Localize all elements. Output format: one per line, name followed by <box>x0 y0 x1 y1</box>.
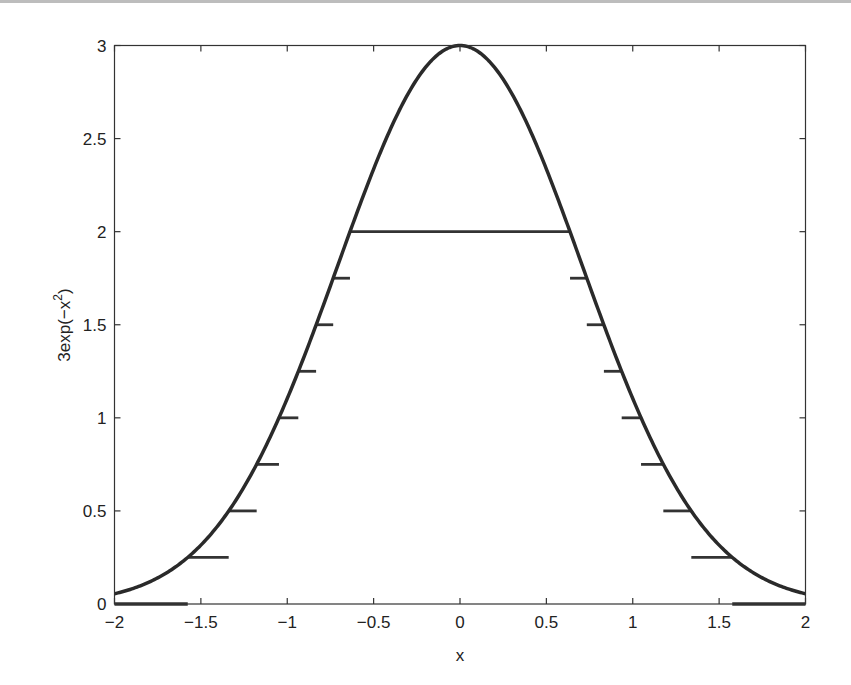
x-tick-label: −1 <box>278 613 297 632</box>
y-tick-label: 2.5 <box>83 130 107 149</box>
x-tick-label: 1.5 <box>707 613 731 632</box>
x-tick-label: 0 <box>455 613 464 632</box>
x-tick-label: −1.5 <box>184 613 218 632</box>
x-tick-label: −2 <box>105 613 124 632</box>
x-tick-label: −0.5 <box>357 613 391 632</box>
x-tick-label: 2 <box>801 613 810 632</box>
y-axis-label: 3exp(−x2) <box>51 288 74 361</box>
x-tick-label: 1 <box>628 613 637 632</box>
plot-lines <box>115 46 806 605</box>
y-tick-label: 1.5 <box>83 316 107 335</box>
curve-line <box>115 46 806 594</box>
y-tick-label: 2 <box>97 223 106 242</box>
x-tick-label: 0.5 <box>535 613 559 632</box>
y-tick-label: 0.5 <box>83 502 107 521</box>
x-axis-label: x <box>456 646 465 665</box>
y-tick-label: 0 <box>97 595 106 614</box>
axis-ticks: −2−1.5−1−0.500.511.5200.511.522.53 <box>83 37 810 633</box>
chart: −2−1.5−1−0.500.511.5200.511.522.53 x 3ex… <box>0 0 851 685</box>
y-tick-label: 1 <box>97 409 106 428</box>
y-tick-label: 3 <box>97 37 106 56</box>
axes-box <box>115 46 806 605</box>
